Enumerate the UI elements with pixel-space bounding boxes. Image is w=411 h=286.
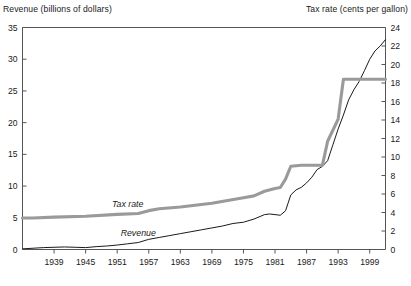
x-tick-label: 1945 [76,257,95,267]
x-tick-label: 1993 [329,257,348,267]
right-tick-label: 16 [391,97,401,107]
left-axis-ticks: 05101520253035 [8,23,27,255]
x-tick-label: 1981 [265,257,284,267]
left-tick-label: 20 [8,118,18,128]
data-series-group [23,40,386,249]
right-tick-label: 10 [391,152,401,162]
right-tick-label: 2 [391,226,396,236]
left-tick-label: 25 [8,86,18,96]
left-tick-label: 10 [8,181,18,191]
x-tick-label: 1969 [202,257,221,267]
x-tick-label: 1975 [234,257,253,267]
x-axis-ticks: 1939194519511957196319691975198119871993… [45,250,380,267]
x-tick-label: 1951 [108,257,127,267]
left-tick-label: 0 [13,245,18,255]
right-tick-label: 24 [391,23,401,33]
right-tick-label: 0 [391,245,396,255]
gasoline-tax-chart: Revenue (billions of dollars) Tax rate (… [0,0,411,286]
right-axis-title: Tax rate (cents per gallon) [306,4,408,14]
x-tick-label: 1957 [139,257,158,267]
series-line-tax-rate [23,79,386,218]
right-axis-ticks: 024681012141618202224 [382,23,401,255]
left-tick-label: 35 [8,23,18,33]
chart-plot-area: 05101520253035 024681012141618202224 193… [0,0,411,286]
right-tick-label: 18 [391,78,401,88]
right-tick-label: 8 [391,171,396,181]
x-tick-label: 1987 [297,257,316,267]
right-tick-label: 12 [391,134,401,144]
series-annotations: Tax rateRevenue [112,199,156,238]
left-tick-label: 15 [8,149,18,159]
left-tick-label: 5 [13,213,18,223]
series-label-revenue: Revenue [121,228,156,238]
left-tick-label: 30 [8,54,18,64]
right-tick-label: 20 [391,60,401,70]
left-axis-title: Revenue (billions of dollars) [3,4,112,14]
series-label-tax-rate: Tax rate [112,199,144,209]
x-tick-label: 1999 [360,257,379,267]
right-tick-label: 6 [391,189,396,199]
right-tick-label: 22 [391,41,401,51]
right-tick-label: 4 [391,208,396,218]
right-tick-label: 14 [391,115,401,125]
x-tick-label: 1963 [171,257,190,267]
x-tick-label: 1939 [45,257,64,267]
